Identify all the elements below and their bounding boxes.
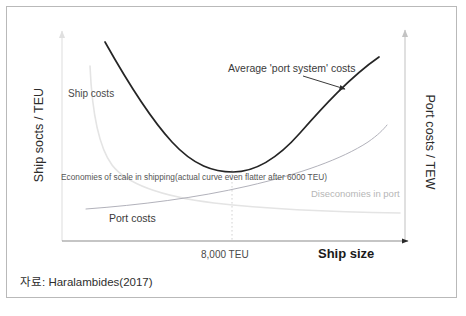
figure-root: Ship socts / TEU Port costs / TEW Ship s… — [0, 0, 466, 316]
left-axis-label: Ship socts / TEU — [32, 60, 46, 210]
annotation-ship-costs: Ship costs — [68, 88, 114, 99]
annotation-diseconomies-in-port: Diseconomies in port — [311, 188, 400, 199]
x-axis-tick-label: 8,000 TEU — [201, 249, 249, 260]
average-cost-leader-arrow — [303, 76, 345, 89]
right-axis-label: Port costs / TEW — [423, 67, 437, 217]
chart-canvas — [0, 0, 466, 316]
source-caption: 자료: Haralambides(2017) — [20, 273, 153, 289]
annotation-economies-of-scale: Economies of scale in shipping(actual cu… — [61, 172, 186, 183]
annotation-average-port-system-costs: Average 'port system' costs — [228, 62, 356, 74]
x-axis-label: Ship size — [318, 246, 374, 261]
annotation-port-costs: Port costs — [109, 212, 156, 224]
